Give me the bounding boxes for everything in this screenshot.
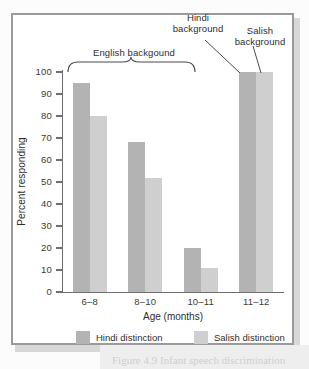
legend-entry-hindi: Hindi distinction	[76, 330, 163, 344]
bar-salish-0	[90, 116, 107, 292]
y-axis-tick	[56, 203, 62, 204]
y-axis-tick-label: 50	[26, 176, 52, 187]
legend-label: Hindi distinction	[96, 332, 163, 343]
y-axis-tick-label: 60	[26, 154, 52, 165]
annotation-english-background: English backgound	[74, 47, 194, 58]
y-axis-tick	[56, 181, 62, 182]
y-axis-line	[62, 70, 63, 293]
y-axis-tick	[56, 225, 62, 226]
figure-caption-strip: Figure 4.9 Infant speech discrimination	[100, 345, 309, 369]
bar-hindi-1	[128, 142, 145, 292]
y-axis-tick-label: 100	[26, 66, 52, 77]
x-axis-tick-label: 10–11	[173, 296, 229, 307]
x-axis-line	[62, 292, 284, 293]
legend-entry-salish: Salish distinction	[194, 330, 285, 344]
y-axis-tick-label: 90	[26, 88, 52, 99]
y-axis-tick-labels: 0102030405060708090100	[24, 0, 52, 369]
x-axis-tick-label: 11–12	[228, 296, 284, 307]
legend-swatch-salish-icon	[194, 331, 208, 344]
scanned-page: 0102030405060708090100 Percent respondin…	[0, 0, 309, 369]
bar-salish-1	[145, 178, 162, 292]
figure-caption-text: Figure 4.9 Infant speech discrimination	[112, 354, 285, 366]
english-background-brace	[68, 57, 195, 72]
bar-salish-3	[256, 72, 273, 292]
x-axis-tick-label: 6–8	[62, 296, 118, 307]
x-axis-title: Age (months)	[62, 311, 284, 322]
bar-hindi-3	[239, 72, 256, 292]
y-axis-tick-label: 40	[26, 198, 52, 209]
y-axis-title: Percent responding	[16, 112, 27, 252]
y-axis-tick-label: 30	[26, 220, 52, 231]
y-axis-tick-label: 70	[26, 132, 52, 143]
bar-hindi-0	[73, 83, 90, 292]
legend-swatch-hindi-icon	[76, 331, 90, 344]
y-axis-tick	[56, 159, 62, 160]
y-axis-tick	[56, 71, 62, 72]
bar-salish-2	[201, 268, 218, 292]
annotation-salish-background: Salish background	[229, 25, 291, 47]
y-axis-tick	[56, 115, 62, 116]
y-axis-tick-label: 10	[26, 264, 52, 275]
y-axis-tick	[56, 269, 62, 270]
y-axis-tick	[56, 291, 62, 292]
x-axis-tick-label: 8–10	[117, 296, 173, 307]
annotation-hindi-background: Hindi background	[168, 12, 228, 34]
y-axis-tick-label: 80	[26, 110, 52, 121]
bar-hindi-2	[184, 248, 201, 292]
y-axis-tick	[56, 137, 62, 138]
legend-label: Salish distinction	[214, 332, 285, 343]
bar-chart: 0102030405060708090100 Percent respondin…	[0, 0, 309, 369]
y-axis-tick-label: 20	[26, 242, 52, 253]
y-axis-tick-label: 0	[26, 286, 52, 297]
y-axis-tick	[56, 247, 62, 248]
salish-leader-line	[253, 46, 261, 73]
y-axis-tick	[56, 93, 62, 94]
chart-legend: Hindi distinctionSalish distinction	[62, 330, 287, 346]
